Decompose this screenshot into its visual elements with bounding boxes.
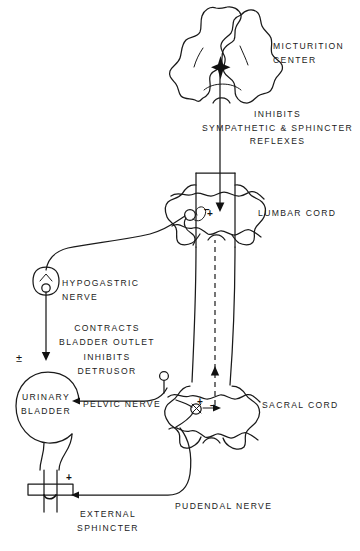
- sphincter-icon: [28, 484, 73, 499]
- sign-sacral-plus: +: [197, 397, 203, 406]
- ascending-sensory-pathway: [211, 240, 219, 405]
- diagram-canvas: [0, 0, 360, 551]
- sign-detrusor-plusminus: ±: [16, 353, 22, 363]
- pudendal-nerve-path: [71, 428, 191, 498]
- label-inhibits-detrusor: INHIBITS DETRUSOR: [57, 351, 157, 378]
- sphincter-band: [28, 484, 73, 495]
- label-pudendal-nerve: PUDENDAL NERVE: [175, 500, 272, 514]
- ganglion-soma: [42, 284, 50, 292]
- brainstem-cross-section-icon: [170, 7, 283, 103]
- spinal-cord-column: [192, 247, 235, 385]
- sign-sacral-minus: −: [210, 401, 216, 410]
- label-external-sphincter: EXTERNAL SPHINCTER: [56, 508, 160, 535]
- stretch-receptor-icon: [160, 372, 169, 381]
- arrow-down-icon: [216, 203, 225, 213]
- lumbar-cord-cross-section: [46, 173, 265, 270]
- label-sacral-cord: SACRAL CORD: [262, 399, 339, 413]
- label-urinary-bladder: URINARY BLADDER: [12, 391, 80, 418]
- arrow-down-icon: [42, 352, 50, 361]
- label-hypogastric-nerve: HYPOGASTRIC NERVE: [62, 277, 139, 304]
- sign-sphincter-plus: +: [66, 473, 72, 482]
- arrow-up-icon: [211, 366, 219, 376]
- sacral-cord-cross-section: [165, 386, 260, 449]
- label-pelvic-nerve: PELVIC NERVE: [83, 398, 161, 412]
- label-inhibits-reflexes: INHIBITS SYMPATHETIC & SPHINCTER REFLEXE…: [200, 108, 355, 149]
- label-micturition-center: MICTURITION CENTER: [273, 40, 344, 67]
- label-contracts-bladder-outlet: CONTRACTS BLADDER OUTLET: [52, 322, 162, 349]
- sign-lumbar-plus: +: [207, 209, 213, 218]
- micturition-diagram: MICTURITION CENTER INHIBITS SYMPATHETIC …: [0, 0, 360, 551]
- label-lumbar-cord: LUMBAR CORD: [258, 207, 336, 221]
